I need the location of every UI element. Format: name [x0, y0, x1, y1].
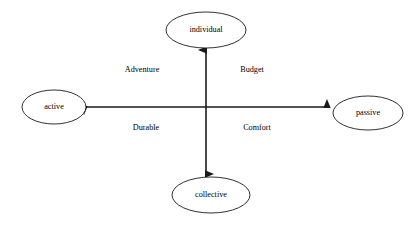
diagram-canvas: individual active passive collective Adv…: [0, 0, 419, 226]
quadrant-label-durable: Durable: [133, 123, 160, 132]
quadrant-label-adventure: Adventure: [125, 65, 160, 74]
quadrant-label-comfort: Comfort: [243, 123, 271, 132]
node-passive-label: passive: [356, 108, 380, 117]
node-active[interactable]: active: [22, 90, 86, 124]
node-individual-label: individual: [189, 25, 223, 34]
node-active-label: active: [44, 102, 64, 111]
node-passive[interactable]: passive: [333, 96, 403, 130]
quadrant-label-budget: Budget: [240, 65, 264, 74]
positioning-map-diagram: individual active passive collective Adv…: [0, 0, 419, 226]
node-individual[interactable]: individual: [166, 12, 246, 48]
node-collective-label: collective: [195, 190, 227, 199]
node-collective[interactable]: collective: [172, 177, 250, 213]
